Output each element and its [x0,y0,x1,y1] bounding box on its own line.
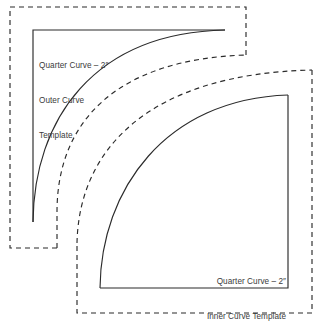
inner-template-label: Quarter Curve – 2″ Inner Curve Template [145,253,286,334]
outer-template-label: Quarter Curve – 2″ Outer Curve Template [39,37,108,165]
inner-template-label-line-1: Quarter Curve – 2″ [145,276,286,288]
quarter-curve-template-diagram: Quarter Curve – 2″ Outer Curve Template … [0,0,329,334]
outer-template-label-line-2: Outer Curve [39,95,108,107]
inner-template-label-line-2: Inner Curve Template [145,311,286,323]
outer-template-label-line-3: Template [39,130,108,142]
outer-template-label-line-1: Quarter Curve – 2″ [39,60,108,72]
